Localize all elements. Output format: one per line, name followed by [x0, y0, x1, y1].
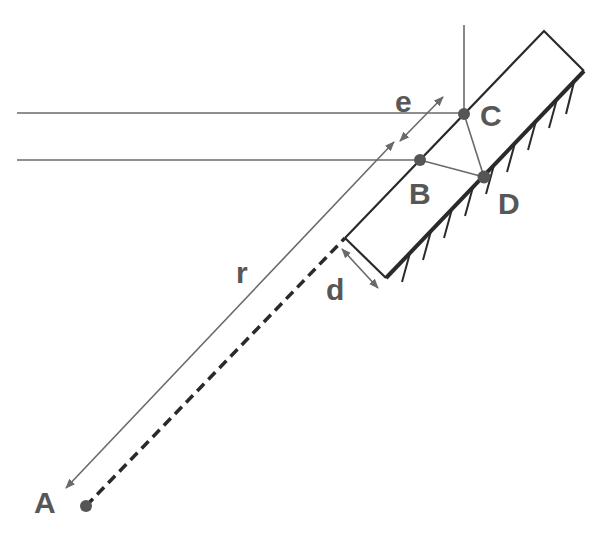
- r-dimension-arrow: [66, 142, 394, 488]
- geometry-diagram: A B C D r e d: [0, 0, 612, 542]
- point-c: [458, 108, 470, 120]
- point-b: [414, 154, 426, 166]
- label-a: A: [34, 486, 56, 519]
- label-c: C: [480, 99, 502, 132]
- label-d: D: [498, 187, 520, 220]
- point-d: [478, 171, 491, 184]
- dashed-line-a-to-slab: [86, 238, 345, 506]
- line-b-to-d: [420, 160, 484, 177]
- d-dimension-arrow: [342, 249, 378, 288]
- label-b: B: [409, 177, 431, 210]
- point-a: [80, 500, 92, 512]
- label-e: e: [395, 85, 412, 118]
- label-r: r: [236, 256, 248, 289]
- label-d-distance: d: [326, 273, 344, 306]
